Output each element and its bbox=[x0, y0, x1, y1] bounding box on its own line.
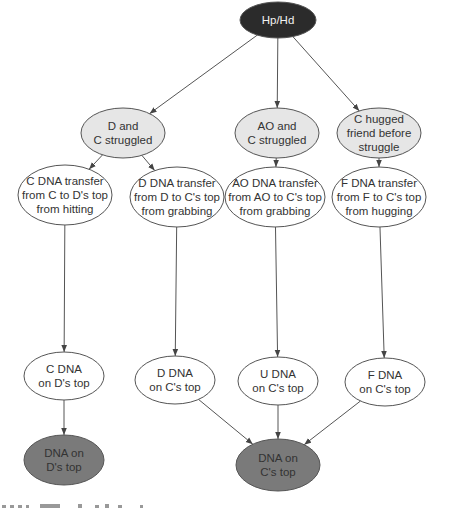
edge-hp_hd-to-ao_c_struggled bbox=[277, 38, 278, 108]
edge-hp_hd-to-d_c_struggled bbox=[150, 35, 258, 114]
node-label-ao_c_struggled: AO andC struggled bbox=[248, 119, 307, 147]
network-diagram bbox=[0, 0, 450, 508]
edge-ao_dna_transfer-to-u_dna_on_c bbox=[275, 227, 277, 357]
edge-f_dna_on_c-to-dna_on_c bbox=[304, 401, 360, 445]
node-label-u_dna_on_c: U DNAon C's top bbox=[252, 367, 303, 395]
edge-d_dna_transfer-to-d_dna_on_c bbox=[175, 227, 176, 356]
edges bbox=[64, 35, 384, 445]
clipped-caption bbox=[0, 503, 160, 508]
node-label-c_dna_transfer: C DNA transferfrom C to D's topfrom hitt… bbox=[22, 174, 108, 216]
edge-d_c_struggled-to-d_dna_transfer bbox=[142, 155, 155, 170]
edge-c_dna_transfer-to-c_dna_on_d bbox=[64, 225, 65, 352]
node-label-d_dna_on_c: D DNAon C's top bbox=[149, 366, 200, 394]
edge-d_c_struggled-to-c_dna_transfer bbox=[89, 155, 102, 169]
node-label-f_dna_transfer: F DNA transferfrom F to C's topfrom hugg… bbox=[337, 176, 422, 218]
node-label-dna_on_d: DNA onD's top bbox=[44, 446, 84, 474]
edge-hp_hd-to-c_hugged bbox=[293, 37, 359, 111]
node-label-d_dna_transfer: D DNA transferfrom D to C's topfrom grab… bbox=[134, 176, 220, 218]
nodes bbox=[18, 2, 426, 491]
node-label-c_hugged: C huggedfriend beforestruggle bbox=[347, 112, 412, 154]
node-label-c_dna_on_d: C DNAon D's top bbox=[38, 362, 89, 390]
node-label-hp_hd: Hp/Hd bbox=[262, 13, 295, 27]
edge-d_dna_on_c-to-dna_on_c bbox=[199, 399, 253, 444]
node-label-d_c_struggled: D andC struggled bbox=[94, 119, 153, 147]
node-label-ao_dna_transfer: AO DNA transferfrom AO to C's topfrom gr… bbox=[228, 176, 322, 218]
edge-f_dna_transfer-to-f_dna_on_c bbox=[380, 227, 384, 358]
node-label-dna_on_c: DNA onC's top bbox=[258, 451, 298, 479]
node-label-f_dna_on_c: F DNAon C's top bbox=[359, 368, 410, 396]
